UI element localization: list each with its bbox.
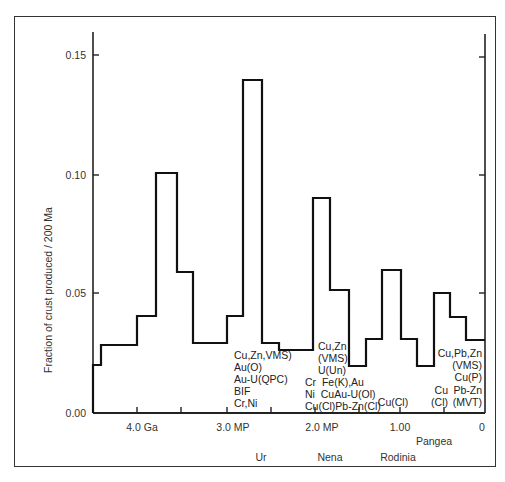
y-tick-label: 0.15 [66,49,87,61]
y-tick-label: 0.05 [66,287,87,299]
x-tick-label: 4.0 Ga [126,421,158,433]
annotation-nena-deposits: Cr Fe(K),Au Ni CuAu-U(Ol) Cu(Cl)Pb-Zn(Cl… [305,376,381,412]
annotation-rodinia-deposits: Cu(Cl) [378,396,408,408]
annotation-pangea-cu: Cu (Cl) [431,384,448,408]
svg-text:Cu,Pb,Zn: Cu,Pb,Zn [438,347,483,359]
supercontinent-rodinia: Rodinia [380,451,416,463]
svg-text:Au(O): Au(O) [234,361,262,373]
svg-text:(VMS): (VMS) [452,359,482,371]
svg-text:Au-U(QPC): Au-U(QPC) [234,373,288,385]
supercontinent-pangea: Pangea [416,435,452,447]
svg-text:(Cl): (Cl) [431,396,448,408]
crust-production-chart: 0.15 0.10 0.05 0.00 Fraction of crust pr… [0,0,505,482]
y-ticks-right [479,57,485,293]
x-tick-label: 2.0 MP [305,421,338,433]
svg-text:Cu,Zn: Cu,Zn [318,340,347,352]
svg-text:Cu: Cu [435,384,449,396]
svg-text:(VMS): (VMS) [318,352,348,364]
svg-text:Cu(P): Cu(P) [455,371,482,383]
x-tick-label: 0 [479,421,485,433]
crust-production-step-line [93,80,485,413]
svg-text:Cu,Zn,VMS): Cu,Zn,VMS) [234,349,292,361]
svg-text:Cu(Cl)Pb-Zn(Cl): Cu(Cl)Pb-Zn(Cl) [305,400,381,412]
svg-text:Cr,Ni: Cr,Ni [234,397,257,409]
annotation-nena-vms: Cu,Zn (VMS) U(Un) [318,340,348,376]
svg-text:Ni CuAu-U(Ol): Ni CuAu-U(Ol) [305,388,376,400]
svg-text:BIF: BIF [234,385,250,397]
x-tick-label: 3.0 MP [216,421,249,433]
y-tick-label: 0.10 [66,169,87,181]
x-tick-label: 1.00 [390,421,411,433]
svg-text:Cr Fe(K),Au: Cr Fe(K),Au [305,376,364,388]
y-tick-label: 0.00 [66,407,87,419]
svg-text:U(Un): U(Un) [318,364,346,376]
svg-text:Pb-Zn: Pb-Zn [453,384,482,396]
annotation-archean-deposits: Cu,Zn,VMS) Au(O) Au-U(QPC) BIF Cr,Ni [234,349,292,409]
y-axis-label: Fraction of crust produced / 200 Ma [42,207,54,373]
supercontinent-ur: Ur [255,451,267,463]
svg-text:Cu(Cl): Cu(Cl) [378,396,408,408]
y-ticks-left [93,55,99,293]
supercontinent-nena: Nena [317,451,342,463]
svg-text:(MVT): (MVT) [453,396,482,408]
